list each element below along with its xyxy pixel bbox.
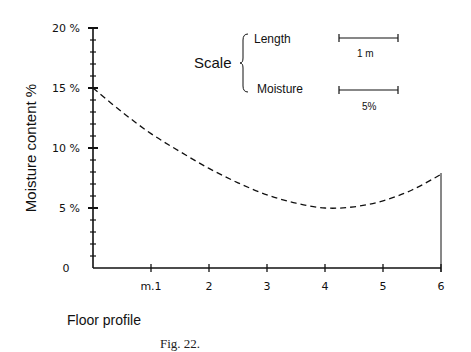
scale-moisture-value: 5% xyxy=(362,101,377,112)
scale-brace xyxy=(240,34,248,92)
scale-length-label: Length xyxy=(254,32,291,46)
x-tick-label: 5 xyxy=(380,280,387,293)
y-tick-label: 10 % xyxy=(52,142,80,155)
x-axis: m.123456 xyxy=(93,264,445,293)
y-tick-label: 20 % xyxy=(52,22,80,35)
x-tick-label: 3 xyxy=(264,280,271,293)
scale-legend: Scale Length Moisture 1 m 5% xyxy=(194,32,398,112)
moisture-chart: 05 %10 %15 %20 % m.123456 Moisture conte… xyxy=(0,0,471,352)
x-tick-label: 6 xyxy=(438,280,445,293)
scale-title: Scale xyxy=(194,54,232,71)
scale-moisture-bar xyxy=(339,86,398,94)
y-tick-label: 0 xyxy=(63,262,70,275)
y-tick-label: 5 % xyxy=(59,202,80,215)
x-axis-label: Floor profile xyxy=(67,312,141,328)
x-tick-label: 4 xyxy=(322,280,329,293)
scale-length-value: 1 m xyxy=(357,48,374,59)
figure-caption: Fig. 22. xyxy=(160,336,200,351)
x-tick-label: 2 xyxy=(206,280,213,293)
y-axis-label: Moisture content % xyxy=(22,84,39,212)
scale-length-bar xyxy=(339,34,398,42)
x-tick-label: m.1 xyxy=(140,280,161,293)
scale-moisture-label: Moisture xyxy=(257,82,303,96)
y-axis: 05 %10 %15 %20 % xyxy=(52,22,98,275)
y-tick-label: 15 % xyxy=(52,82,80,95)
moisture-curve xyxy=(93,88,441,208)
